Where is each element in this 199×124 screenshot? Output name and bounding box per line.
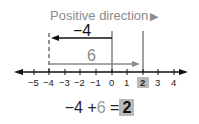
equation-addend-b: 6 xyxy=(97,99,106,116)
negative-four-arrowhead-icon xyxy=(51,35,59,41)
tick-label: 3 xyxy=(155,77,160,88)
tick-label: −5 xyxy=(28,77,39,88)
tick-label: −3 xyxy=(59,77,70,88)
tick-label: 4 xyxy=(171,77,176,88)
equation: −4 +6 =2 xyxy=(0,99,199,117)
six-label: 6 xyxy=(87,47,96,65)
six-arrowhead-icon xyxy=(132,61,140,67)
tick-label: 0 xyxy=(109,77,114,88)
tick-label: 1 xyxy=(124,77,129,88)
tick-label: −1 xyxy=(90,77,101,88)
equation-result: 2 xyxy=(119,99,134,116)
tick-label-highlighted: 2 xyxy=(140,77,145,88)
tick-label: −2 xyxy=(74,77,85,88)
left-arrowhead-icon xyxy=(14,69,23,75)
equation-addend-a: −4 xyxy=(65,99,83,116)
tick-labels: −5 −4 −3 −2 −1 0 1 2 3 4 xyxy=(0,77,199,89)
equation-plus: + xyxy=(87,99,96,116)
right-arrowhead-icon xyxy=(179,69,188,75)
tick-label: −4 xyxy=(43,77,54,88)
negative-four-label: −4 xyxy=(73,22,91,40)
